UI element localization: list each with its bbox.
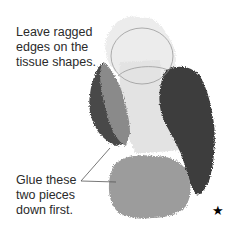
bottom-mid-piece [109,155,191,218]
caption-line: down first. [16,203,76,218]
star-icon: ★ [212,204,224,217]
caption-line: two pieces [16,188,76,203]
leader-line-upper [81,148,110,181]
caption-ragged-edges: Leave ragged edges on the tissue shapes. [16,25,96,70]
caption-glue-first: Glue these two pieces down first. [16,173,76,218]
caption-line: Leave ragged [16,25,96,40]
caption-line: edges on the [16,40,96,55]
caption-line: tissue shapes. [16,55,96,70]
caption-line: Glue these [16,173,76,188]
